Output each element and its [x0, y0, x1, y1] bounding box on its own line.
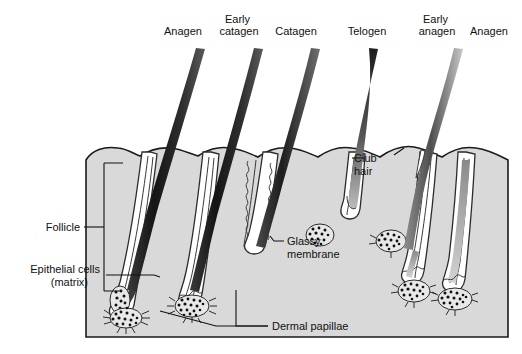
callout-follicle: Follicle — [46, 221, 80, 233]
stage-labels: Anagen Early catagen Catagen Telogen Ear… — [164, 13, 508, 37]
callout-dermal-papillae: Dermal papillae — [272, 320, 348, 332]
stage-label-anagen-1: Anagen — [164, 25, 202, 37]
stage-label-telogen: Telogen — [348, 25, 387, 37]
stage-label-early-catagen: Early catagen — [219, 13, 258, 37]
stage-label-catagen: Catagen — [275, 25, 317, 37]
hair-growth-cycle-diagram: Anagen Early catagen Catagen Telogen Ear… — [0, 0, 522, 354]
stage-label-early-anagen: Early anagen — [419, 13, 456, 37]
stage-label-anagen-2: Anagen — [470, 25, 508, 37]
diagram-canvas: Anagen Early catagen Catagen Telogen Ear… — [0, 0, 522, 354]
